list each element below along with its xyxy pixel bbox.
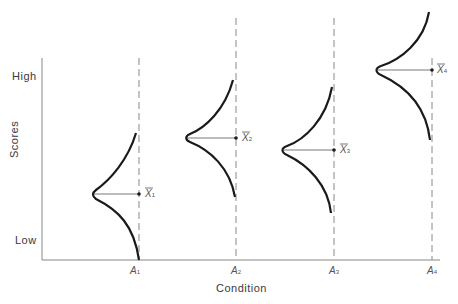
mean-label-3: X3 — [340, 144, 350, 155]
mean-dot-3 — [332, 148, 336, 152]
x-tick-a3: A3 — [329, 265, 339, 276]
y-tick-high: High — [12, 70, 37, 82]
mean-label-1: X1 — [145, 188, 155, 199]
mean-dot-4 — [430, 68, 434, 72]
y-tick-low: Low — [15, 234, 37, 246]
mean-label-4: X4 — [437, 64, 447, 75]
x-tick-a1: A1 — [130, 265, 140, 276]
y-axis-label: Scores — [8, 121, 20, 158]
x-tick-a4: A4 — [427, 265, 437, 276]
distribution-curve-1 — [93, 133, 141, 260]
mean-dot-1 — [137, 192, 141, 196]
x-axis-label: Condition — [216, 282, 267, 294]
distribution-curve-2 — [186, 80, 238, 197]
diagram-canvas — [0, 0, 458, 304]
mean-dot-2 — [234, 136, 238, 140]
distribution-curve-3 — [283, 87, 336, 213]
mean-label-2: X2 — [242, 132, 252, 143]
distribution-curve-4 — [377, 12, 434, 140]
x-tick-a2: A2 — [231, 265, 241, 276]
